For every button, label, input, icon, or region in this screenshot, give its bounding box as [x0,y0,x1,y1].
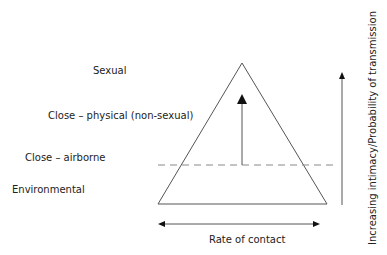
pyramid-diagram [0,0,387,255]
x-axis-label: Rate of contact [209,234,285,245]
y-axis-label: Increasing intimacy/Probability of trans… [367,11,378,245]
left-arrowhead-icon [158,221,165,227]
right-arrowhead-icon [313,221,320,227]
inner-arrowhead-icon [237,94,247,104]
intimacy-arrowhead-icon [339,72,345,79]
